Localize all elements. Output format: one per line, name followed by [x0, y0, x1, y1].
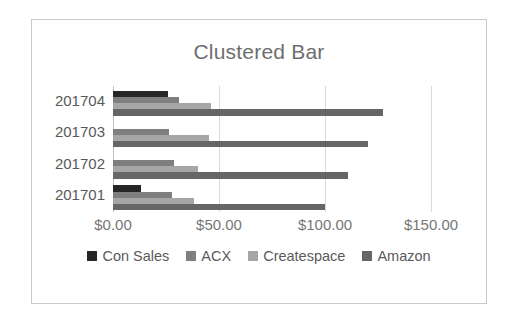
bar-amazon-201704[interactable] [113, 109, 383, 115]
chart-legend[interactable]: Con SalesACXCreatespaceAmazon [32, 248, 486, 264]
bar-amazon-201702[interactable] [113, 172, 348, 178]
bar-row [113, 141, 431, 147]
plot-area[interactable]: 201704201703201702201701 [113, 86, 431, 212]
legend-label: Amazon [377, 248, 430, 264]
value-tick-label: $100.00 [298, 216, 352, 233]
legend-label: ACX [201, 248, 231, 264]
bar-row [113, 204, 431, 210]
bar-group-201702[interactable]: 201702 [113, 149, 431, 181]
gridline-15000 [431, 86, 432, 212]
bar-amazon-201703[interactable] [113, 141, 368, 147]
legend-swatch-icon [248, 251, 258, 261]
legend-label: Createspace [263, 248, 345, 264]
legend-item-con-sales[interactable]: Con Sales [87, 248, 169, 264]
legend-swatch-icon [362, 251, 372, 261]
bar-row [113, 172, 431, 178]
bar-amazon-201701[interactable] [113, 204, 325, 210]
value-tick-label: $50.00 [196, 216, 242, 233]
chart-frame[interactable]: Clustered Bar 201704201703201702201701 $… [31, 19, 487, 304]
legend-item-amazon[interactable]: Amazon [362, 248, 430, 264]
bar-group-201704[interactable]: 201704 [113, 86, 431, 118]
category-label-201702: 201702 [25, 155, 105, 172]
category-label-201701: 201701 [25, 186, 105, 203]
bar-row [113, 109, 431, 115]
value-tick-label: $0.00 [94, 216, 132, 233]
value-tick-label: $150.00 [404, 216, 458, 233]
legend-item-createspace[interactable]: Createspace [248, 248, 345, 264]
category-label-201703: 201703 [25, 123, 105, 140]
bar-group-201701[interactable]: 201701 [113, 181, 431, 213]
chart-title: Clustered Bar [32, 40, 486, 64]
legend-swatch-icon [87, 251, 97, 261]
legend-swatch-icon [186, 251, 196, 261]
value-axis-labels: $0.00$50.00$100.00$150.00 [113, 216, 431, 240]
legend-label: Con Sales [102, 248, 169, 264]
category-label-201704: 201704 [25, 92, 105, 109]
bar-group-201703[interactable]: 201703 [113, 118, 431, 150]
legend-item-acx[interactable]: ACX [186, 248, 231, 264]
